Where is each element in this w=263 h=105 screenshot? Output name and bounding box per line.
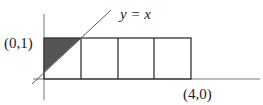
- line-label: y = x: [118, 6, 151, 22]
- point-label-bottom-right: (4,0): [183, 86, 212, 103]
- point-label-top-left: (0,1): [4, 35, 33, 52]
- diagram-canvas: y = x (0,1) (4,0): [0, 0, 263, 105]
